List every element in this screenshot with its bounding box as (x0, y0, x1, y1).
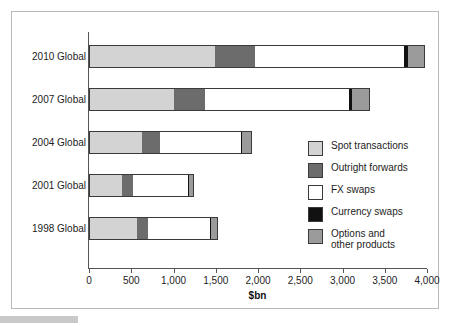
x-axis-tick-label: 2,500 (278, 275, 322, 286)
bar-segment (137, 217, 148, 240)
legend-swatch (308, 185, 323, 200)
page-edge-artifact (0, 316, 78, 323)
x-axis-tick (343, 269, 344, 273)
bar-segment (89, 45, 215, 68)
bar-segment (352, 88, 370, 111)
legend-label: Currency swaps (331, 206, 403, 217)
x-axis-tick-label: 2,000 (236, 275, 280, 286)
x-axis-tick-label: 3,500 (363, 275, 407, 286)
bar-segment (142, 131, 160, 154)
bar-segment (215, 45, 255, 68)
bar-segment (174, 88, 205, 111)
x-axis-tick (131, 269, 132, 273)
bar-segment (160, 131, 241, 154)
legend-swatch (308, 141, 323, 156)
bar-segment (408, 45, 425, 68)
chart-legend: Spot transactionsOutright forwardsFX swa… (308, 140, 408, 258)
figure-frame: 2010 Global2007 Global2004 Global2001 Gl… (11, 11, 439, 309)
x-axis-tick (300, 269, 301, 273)
legend-label: Options and other products (331, 228, 395, 250)
x-axis-tick-label: 0 (67, 275, 111, 286)
x-axis-tick-label: 4,000 (405, 275, 449, 286)
stacked-bar-chart: 2010 Global2007 Global2004 Global2001 Gl… (12, 12, 438, 308)
x-axis-tick-label: 500 (109, 275, 153, 286)
x-axis-tick (174, 269, 175, 273)
bar-segment (89, 217, 137, 240)
bar-segment (89, 131, 142, 154)
legend-item: Currency swaps (308, 206, 408, 224)
bar-segment (122, 174, 133, 197)
legend-swatch (308, 207, 323, 222)
y-axis-label: 2001 Global (0, 180, 86, 191)
legend-item: FX swaps (308, 184, 408, 202)
y-axis-label: 2010 Global (0, 51, 86, 62)
legend-item: Options and other products (308, 228, 408, 254)
bar-segment (205, 88, 350, 111)
bar-segment (211, 217, 218, 240)
legend-label: Spot transactions (331, 140, 408, 151)
x-axis-tick (89, 269, 90, 273)
legend-label: FX swaps (331, 184, 375, 195)
y-axis-label: 1998 Global (0, 223, 86, 234)
bar-segment (133, 174, 188, 197)
x-axis-tick (258, 269, 259, 273)
x-axis-title: $bn (88, 290, 427, 301)
x-axis-tick-label: 1,000 (152, 275, 196, 286)
bar-segment (242, 131, 252, 154)
bar-segment (89, 88, 174, 111)
legend-label: Outright forwards (331, 162, 408, 173)
legend-swatch (308, 229, 323, 244)
y-axis-label: 2004 Global (0, 137, 86, 148)
legend-swatch (308, 163, 323, 178)
x-axis-tick (385, 269, 386, 273)
x-axis-tick (216, 269, 217, 273)
bar-segment (189, 174, 194, 197)
x-axis-tick (427, 269, 428, 273)
y-axis-label: 2007 Global (0, 94, 86, 105)
x-axis-tick-label: 3,000 (321, 275, 365, 286)
x-axis-tick-label: 1,500 (194, 275, 238, 286)
bar-segment (148, 217, 210, 240)
legend-item: Outright forwards (308, 162, 408, 180)
bar-segment (255, 45, 404, 68)
legend-item: Spot transactions (308, 140, 408, 158)
bar-segment (89, 174, 122, 197)
